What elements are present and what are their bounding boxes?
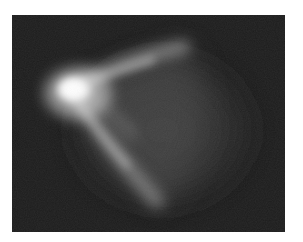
film-grain <box>12 15 285 232</box>
plume-graphic <box>12 15 285 232</box>
plume-photograph <box>12 15 285 232</box>
image-canvas <box>0 0 303 242</box>
